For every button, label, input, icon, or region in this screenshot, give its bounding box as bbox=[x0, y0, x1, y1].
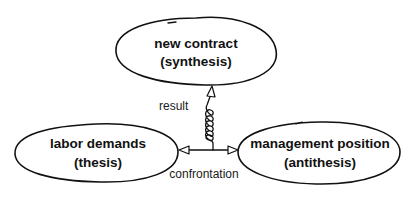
arrowhead-up-icon bbox=[207, 86, 215, 97]
antithesis-title: management position bbox=[250, 136, 390, 151]
synthesis-subtitle: (synthesis) bbox=[160, 54, 231, 69]
arrowhead-left-icon bbox=[179, 146, 189, 154]
node-antithesis: management position (antithesis) bbox=[238, 122, 400, 184]
sketch-mark bbox=[168, 22, 176, 23]
edge-confrontation: confrontation bbox=[169, 146, 238, 181]
antithesis-subtitle: (antithesis) bbox=[284, 155, 356, 170]
dialectic-diagram: new contract (synthesis) labor demands (… bbox=[0, 0, 418, 198]
arrowhead-right-icon bbox=[228, 146, 238, 154]
result-label: result bbox=[159, 99, 189, 113]
confrontation-label: confrontation bbox=[169, 167, 238, 181]
thesis-title: labor demands bbox=[50, 136, 146, 151]
synthesis-title: new contract bbox=[154, 36, 238, 51]
coil-spring bbox=[206, 94, 213, 150]
edge-result: result bbox=[159, 86, 215, 150]
node-thesis: labor demands (thesis) bbox=[15, 124, 178, 182]
thesis-subtitle: (thesis) bbox=[74, 155, 122, 170]
synthesis-ellipse bbox=[116, 17, 276, 85]
antithesis-ellipse bbox=[238, 122, 400, 184]
thesis-ellipse bbox=[15, 124, 178, 182]
node-synthesis: new contract (synthesis) bbox=[116, 17, 276, 85]
